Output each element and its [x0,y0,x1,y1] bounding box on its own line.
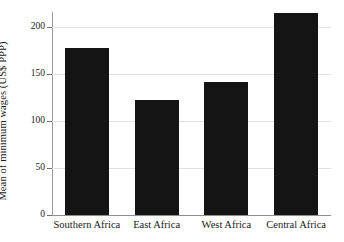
y-axis-tick [47,215,52,216]
y-axis-tick-label: 200 [31,22,45,32]
y-axis-tick-label: 50 [36,163,46,173]
bar [274,13,318,215]
y-axis-tick-label: 100 [31,116,45,126]
x-axis-tick-label: Central Africa [261,219,331,231]
bar [135,100,179,215]
x-axis-line [52,215,331,216]
bar-chart: Mean of minimum wages (US$ PPP) 05010015… [0,0,344,242]
x-axis-tick-label: West Africa [192,219,262,231]
y-axis-tick-label: 0 [40,210,45,220]
y-axis-title: Mean of minimum wages (US$ PPP) [0,0,18,242]
x-axis-tick-label: Southern Africa [52,219,122,231]
bar [65,48,109,215]
bar [204,82,248,215]
y-axis-tick-label: 150 [31,69,45,79]
x-axis-tick-label: East Africa [122,219,192,231]
plot-area [52,12,331,215]
